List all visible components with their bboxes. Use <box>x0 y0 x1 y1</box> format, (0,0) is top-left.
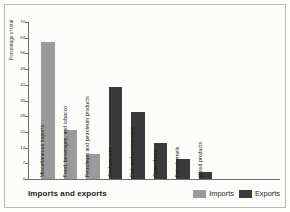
y-tick-mark <box>25 101 28 102</box>
bar: Food, beverages, and tobacco <box>64 130 78 179</box>
y-tick-mark <box>25 22 28 23</box>
bar: Palm kernels <box>176 159 190 179</box>
bar-label: Palm kernels <box>176 146 181 177</box>
y-tick-label: 63 <box>20 36 25 40</box>
bar: Miscellaneous imports <box>41 42 55 179</box>
bar-label: Petroleum and petroleum products <box>86 96 91 177</box>
y-tick-mark <box>25 163 28 164</box>
legend-label: Imports <box>209 189 234 198</box>
y-tick-mark <box>25 132 28 133</box>
y-tick-label: 70 <box>20 20 25 24</box>
plot-area: 07142128354249566370 Miscellaneous impor… <box>28 22 280 180</box>
y-tick-mark <box>25 53 28 54</box>
bar: Cashew nuts <box>109 87 123 179</box>
legend-swatch <box>239 190 252 198</box>
chart-title: Imports and exports <box>28 189 107 198</box>
legend-item: Exports <box>239 189 280 198</box>
bar: Petroleum and petroleum products <box>86 154 100 179</box>
chart-legend: ImportsExports <box>193 189 280 198</box>
y-tick-label: 21 <box>20 130 25 134</box>
y-tick-mark <box>25 179 28 180</box>
y-axis-title: Percentage of total <box>9 20 14 60</box>
chart-screenshot: Percentage of total 07142128354249566370… <box>0 0 290 212</box>
y-tick-mark <box>25 148 28 149</box>
bar-label: Cashew nuts <box>108 146 113 177</box>
y-tick-mark <box>25 85 28 86</box>
y-tick-label: 0 <box>23 177 25 181</box>
bar-group: Miscellaneous importsFood, beverages, an… <box>29 22 280 179</box>
legend-item: Imports <box>193 189 234 198</box>
legend-swatch <box>193 190 206 198</box>
bar: Wood products <box>199 172 213 179</box>
y-tick-label: 56 <box>20 51 25 55</box>
bar-label: Food, beverages, and tobacco <box>63 106 68 177</box>
bar: Fish and crustaceans <box>131 112 145 179</box>
y-tick-label: 49 <box>20 67 25 71</box>
y-tick-label: 42 <box>20 83 25 87</box>
bar-label: Fish and crustaceans <box>131 127 136 177</box>
bar-label: Miscellaneous imports <box>41 125 46 177</box>
y-tick-mark <box>25 38 28 39</box>
bar-label: Groundnuts <box>153 149 158 177</box>
y-tick-label: 28 <box>20 114 25 118</box>
y-tick-label: 35 <box>20 98 25 102</box>
y-tick-mark <box>25 116 28 117</box>
bar-label: Wood products <box>198 142 203 177</box>
chart-footer: Imports and exports ImportsExports <box>28 188 280 202</box>
y-tick-label: 7 <box>23 161 25 165</box>
legend-label: Exports <box>255 189 280 198</box>
y-tick-label: 14 <box>20 145 25 149</box>
bar: Groundnuts <box>154 143 168 179</box>
x-axis-line <box>28 179 280 180</box>
y-tick-mark <box>25 69 28 70</box>
